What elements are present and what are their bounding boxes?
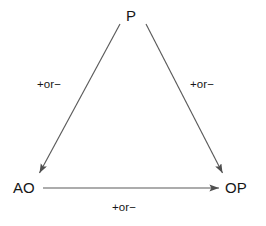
edge-label-p-to-op: +or− [190, 78, 214, 90]
node-label-p: P [126, 8, 136, 23]
edge-label-ao-to-op: +or− [112, 201, 136, 213]
node-label-ao: AO [13, 180, 35, 195]
node-label-op: OP [225, 180, 247, 195]
diagram-canvas: P AO OP +or− +or− +or− [0, 0, 266, 226]
edge-label-p-to-ao: +or− [37, 78, 61, 90]
edge-p-to-op [146, 24, 223, 173]
edge-p-to-ao [40, 24, 121, 173]
